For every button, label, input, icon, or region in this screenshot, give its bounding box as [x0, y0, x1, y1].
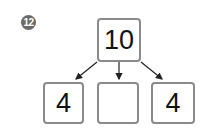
arrow-left-icon — [76, 62, 97, 79]
arrow-right-icon — [141, 62, 162, 79]
bottom-box-middle-answer[interactable] — [97, 82, 139, 124]
top-number-box: 10 — [97, 18, 141, 62]
bottom-box-right: 4 — [151, 82, 195, 124]
bottom-box-left: 4 — [43, 82, 84, 124]
